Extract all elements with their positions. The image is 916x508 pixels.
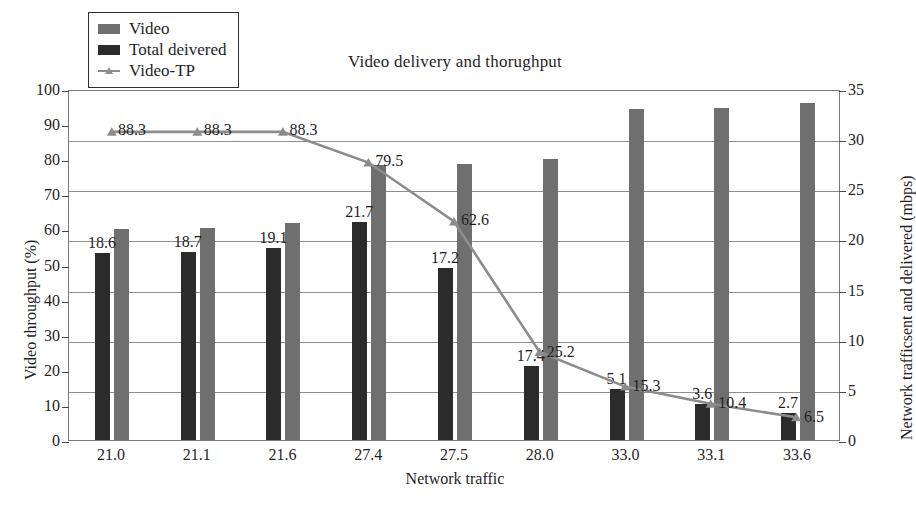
- y-axis-left-tickmark: [62, 407, 69, 408]
- legend-label-total-deivered: Total deivered: [129, 40, 226, 59]
- line-value-label: 88.3: [204, 121, 232, 139]
- y-axis-right-tickmark: [839, 191, 846, 192]
- chart-legend: Video Total deivered Video-TP: [88, 12, 239, 88]
- x-axis-title: Network traffic: [0, 470, 910, 488]
- y-axis-left-tick-label: 70: [44, 186, 60, 204]
- legend-swatch-total-deivered: [98, 45, 120, 55]
- y-axis-left-tickmark: [62, 231, 69, 232]
- video-tp-line-path: [112, 132, 796, 417]
- y-axis-right-tick-label: 30: [848, 131, 864, 149]
- line-value-label: 15.3: [633, 377, 661, 395]
- legend-label-video: Video: [129, 19, 170, 38]
- line-value-label: 6.5: [804, 408, 824, 426]
- y-axis-right-tick-label: 10: [848, 332, 864, 350]
- x-axis-tick-label: 27.5: [440, 446, 468, 464]
- line-value-label: 25.2: [547, 343, 575, 361]
- y-axis-right-tick-label: 35: [848, 81, 864, 99]
- y-axis-right-tickmark: [839, 141, 846, 142]
- legend-marker-video-tp-line-icon: [98, 66, 120, 76]
- y-axis-right-tick-label: 0: [848, 432, 856, 450]
- x-axis-tick-label: 27.4: [354, 446, 382, 464]
- legend-item-video: Video: [98, 18, 226, 39]
- y-axis-right-title: Network trafficsent and delivered (mbps): [898, 176, 916, 441]
- y-axis-right-tickmark: [839, 392, 846, 393]
- y-axis-left-tick-label: 80: [44, 151, 60, 169]
- y-axis-left-tickmark: [62, 126, 69, 127]
- plot-area: 0102030405060708090100 05101520253035 18…: [68, 90, 840, 441]
- legend-swatch-video: [98, 24, 120, 34]
- y-axis-left-tickmark: [62, 267, 69, 268]
- y-axis-left-tick-label: 100: [36, 81, 60, 99]
- y-axis-left-tick-label: 40: [44, 292, 60, 310]
- y-axis-left-tick-label: 20: [44, 362, 60, 380]
- line-value-label: 88.3: [118, 121, 146, 139]
- x-axis-tick-label: 33.1: [697, 446, 725, 464]
- y-axis-left-tick-label: 30: [44, 327, 60, 345]
- y-axis-right-tickmark: [839, 342, 846, 343]
- y-axis-right-tick-label: 15: [848, 282, 864, 300]
- y-axis-left-tickmark: [62, 302, 69, 303]
- y-axis-left-tickmark: [62, 196, 69, 197]
- y-axis-right-tickmark: [839, 241, 846, 242]
- y-axis-left-tickmark: [62, 442, 69, 443]
- y-axis-left-tick-label: 0: [52, 432, 60, 450]
- line-value-label: 88.3: [289, 121, 317, 139]
- y-axis-left-tickmark: [62, 161, 69, 162]
- y-axis-left-tick-label: 50: [44, 257, 60, 275]
- y-axis-right-tickmark: [839, 91, 846, 92]
- line-value-label: 79.5: [375, 152, 403, 170]
- y-axis-left-tick-label: 90: [44, 116, 60, 134]
- y-axis-left-tickmark: [62, 337, 69, 338]
- line-value-label: 10.4: [718, 394, 746, 412]
- x-axis-tick-label: 21.6: [268, 446, 296, 464]
- y-axis-left-tickmark: [62, 372, 69, 373]
- x-axis-tick-label: 33.6: [783, 446, 811, 464]
- x-axis-tick-label: 28.0: [526, 446, 554, 464]
- y-axis-right-tickmark: [839, 442, 846, 443]
- legend-item-video-tp: Video-TP: [98, 60, 226, 81]
- video-tp-line: [69, 91, 839, 440]
- legend-item-total-deivered: Total deivered: [98, 39, 226, 60]
- y-axis-right-tick-label: 5: [848, 382, 856, 400]
- line-value-label: 62.6: [461, 211, 489, 229]
- y-axis-left-title: Video throughput (%): [22, 240, 40, 380]
- x-axis-tick-label: 21.0: [97, 446, 125, 464]
- y-axis-right-tick-label: 25: [848, 181, 864, 199]
- x-axis-tick-label: 33.0: [612, 446, 640, 464]
- y-axis-right-tickmark: [839, 292, 846, 293]
- x-axis-tick-label: 21.1: [183, 446, 211, 464]
- y-axis-left-tick-label: 60: [44, 221, 60, 239]
- y-axis-left-tickmark: [62, 91, 69, 92]
- y-axis-left-tick-label: 10: [44, 397, 60, 415]
- legend-label-video-tp: Video-TP: [129, 61, 195, 80]
- y-axis-right-tick-label: 20: [848, 231, 864, 249]
